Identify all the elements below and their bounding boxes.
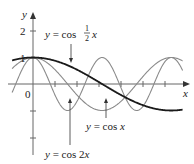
svg-text:1: 1	[85, 24, 89, 33]
arrow-down-icon	[69, 58, 73, 63]
arrow-up-icon	[104, 98, 108, 103]
svg-text:2: 2	[85, 34, 89, 43]
svg-text:y = cos x: y = cos x	[85, 120, 125, 132]
svg-text:x: x	[91, 28, 97, 40]
y-axis-arrow-icon	[30, 12, 36, 19]
svg-text:y = cos 2x: y = cos 2x	[44, 148, 90, 160]
x-axis-label: x	[182, 87, 188, 99]
y-tick-label-1: 1	[20, 52, 26, 64]
annotation-cos-2x: y = cos 2x	[44, 98, 90, 160]
chart-canvas: y 2 1 0 x y = cos 1 2 x y = cos x y = co…	[0, 0, 194, 164]
y-axis-label: y	[21, 8, 27, 20]
svg-text:y = cos: y = cos	[44, 28, 76, 40]
y-tick-label-2: 2	[20, 25, 26, 37]
annotation-cos-half-x: y = cos 1 2 x	[44, 24, 97, 63]
arrow-up-icon	[68, 98, 72, 103]
origin-label: 0	[25, 88, 31, 100]
